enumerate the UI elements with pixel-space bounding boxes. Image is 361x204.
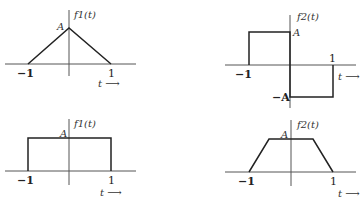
amplitude-label: A [280, 129, 288, 140]
time-axis-label: t ⟶ [338, 71, 360, 82]
tick-label-1: 1 [108, 174, 115, 187]
function-label: f2(t) [296, 119, 319, 130]
time-axis-label: t ⟶ [100, 187, 122, 198]
panel-top-right: f2(t) A −A −1 1 t ⟶ [225, 11, 360, 108]
amplitude-label: A [59, 128, 67, 139]
panel-bottom-right: f2(t) A −1 1 t ⟶ [225, 119, 360, 199]
time-axis-label: t ⟶ [98, 78, 120, 89]
tick-label-neg1: −1 [238, 175, 255, 188]
panel-top-left: f1(t) A −1 1 t ⟶ [5, 9, 136, 89]
tick-label-1: 1 [329, 52, 336, 65]
panel-bottom-left: f1(t) A −1 1 t ⟶ [5, 118, 136, 198]
amplitude-label: A [292, 27, 300, 38]
amplitude-label: A [56, 21, 64, 32]
time-axis-label: t ⟶ [338, 188, 360, 199]
function-label: f2(t) [296, 11, 319, 22]
tick-label-neg1: −1 [17, 174, 34, 187]
function-label: f1(t) [73, 118, 96, 129]
function-label: f1(t) [73, 9, 96, 20]
signal-diagram: f1(t) A −1 1 t ⟶ f2(t) A −A −1 1 t ⟶ f1(… [0, 0, 361, 204]
tick-label-1: 1 [330, 175, 337, 188]
tick-label-neg1: −1 [235, 68, 252, 81]
tick-label-neg1: −1 [17, 67, 34, 80]
neg-amplitude-label: −A [272, 91, 290, 104]
